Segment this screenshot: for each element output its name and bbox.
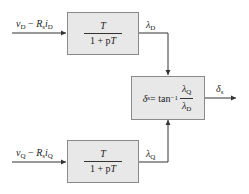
lambda-d-arrow bbox=[138, 33, 168, 75]
top-input-label: vD − RsiD bbox=[16, 19, 53, 31]
output-label: δs bbox=[216, 84, 223, 96]
bottom-input-label: vQ − RsiQ bbox=[16, 148, 53, 160]
top-transfer-function: T 1 + pT bbox=[84, 21, 122, 46]
angle-calc-block: δs = tan−1 λQ λD bbox=[131, 76, 205, 120]
lambda-d-label: λD bbox=[146, 20, 155, 32]
bottom-transfer-function: T 1 + pT bbox=[84, 149, 122, 174]
top-transfer-block: T 1 + pT bbox=[67, 12, 139, 55]
lambda-q-label: λQ bbox=[146, 149, 155, 161]
bottom-transfer-block: T 1 + pT bbox=[67, 140, 139, 183]
angle-equation: δs = tan−1 λQ λD bbox=[143, 84, 194, 113]
